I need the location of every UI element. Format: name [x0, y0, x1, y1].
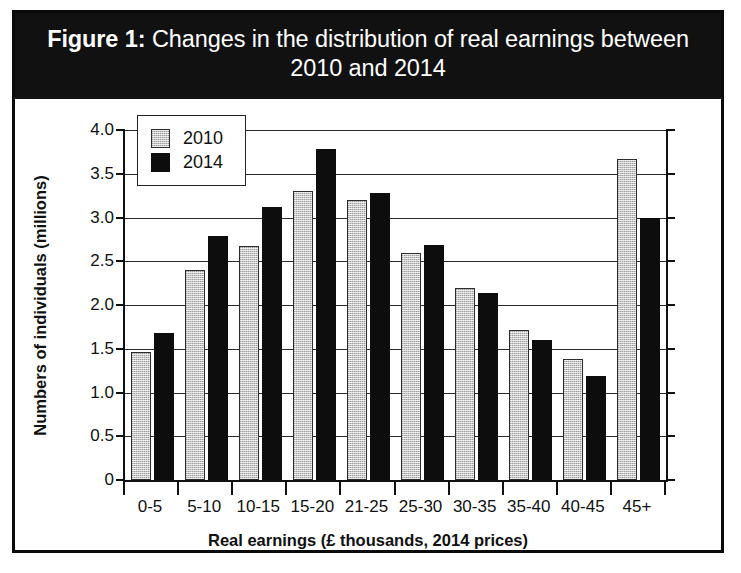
legend-swatch-2010-icon [151, 129, 170, 148]
bar-2014-45+ [640, 218, 660, 480]
bar-2010-35-40 [509, 330, 529, 481]
bar-2010-30-35 [455, 288, 475, 480]
x-axis-ticks [123, 482, 664, 496]
chart-legend: 2010 2014 [137, 115, 246, 186]
legend-label-2014: 2014 [183, 152, 223, 173]
y-axis-tick-mark [116, 260, 125, 262]
bar-2010-21-25 [347, 200, 367, 480]
x-axis-tick-label: 21-25 [345, 497, 388, 517]
y-axis-tick-mark-right [666, 304, 675, 306]
bar-2014-0-5 [154, 333, 174, 480]
bar-2010-45+ [617, 159, 637, 480]
bar-2010-25-30 [401, 253, 421, 481]
y-axis-tick-mark [116, 129, 125, 131]
y-axis-tick-mark [116, 479, 125, 481]
y-axis-tick-label: 0.5 [90, 426, 114, 446]
figure-number-label: Figure 1: [47, 26, 145, 52]
y-axis-tick-mark-right [666, 217, 675, 219]
x-axis-tick-mark [123, 482, 125, 495]
chart-area: Numbers of individuals (millions) 00.51.… [15, 99, 721, 550]
x-axis-tick-mark [339, 482, 341, 495]
y-axis-tick-mark [116, 173, 125, 175]
x-axis-title: Real earnings (£ thousands, 2014 prices) [15, 531, 721, 550]
figure-title-rest: Changes in the distribution of real earn… [152, 26, 689, 81]
x-axis-tick-label: 25-30 [399, 497, 442, 517]
bar-2010-0-5 [131, 352, 151, 480]
bar-2014-15-20 [316, 149, 336, 480]
y-axis-tick-mark [116, 392, 125, 394]
x-axis-tick-label: 15-20 [291, 497, 334, 517]
y-axis-tick-label: 1.0 [90, 383, 114, 403]
bar-2014-30-35 [478, 293, 498, 480]
figure-title: Figure 1: Changes in the distribution of… [41, 25, 695, 83]
y-axis-tick-mark [116, 435, 125, 437]
y-axis-tick-mark [116, 348, 125, 350]
y-axis-tick-mark-right [666, 173, 675, 175]
x-axis-tick-mark [394, 482, 396, 495]
x-axis-tick-labels: 0-55-1010-1515-2021-2525-3030-3535-4040-… [123, 497, 664, 523]
x-axis-tick-label: 35-40 [507, 497, 550, 517]
y-axis-tick-mark [116, 304, 125, 306]
x-axis-tick-label: 45+ [623, 497, 652, 517]
x-axis-tick-label: 40-45 [561, 497, 604, 517]
bar-2014-40-45 [586, 376, 606, 480]
y-axis-tick-mark-right [666, 348, 675, 350]
x-axis-tick-label: 5-10 [187, 497, 221, 517]
y-axis-tick-label: 3.0 [90, 208, 114, 228]
bar-2014-5-10 [208, 236, 228, 480]
y-axis-title-text: Numbers of individuals (millions) [31, 175, 50, 435]
bar-2010-15-20 [293, 191, 313, 480]
y-axis-tick-mark-right [666, 129, 675, 131]
bar-2010-10-15 [239, 246, 259, 480]
legend-item-2010: 2010 [151, 128, 223, 149]
x-axis-tick-mark [556, 482, 558, 495]
x-axis-tick-label: 10-15 [237, 497, 280, 517]
bar-2014-10-15 [262, 207, 282, 480]
y-axis-tick-label: 3.5 [90, 164, 114, 184]
figure-title-banner: Figure 1: Changes in the distribution of… [15, 13, 721, 99]
y-axis-tick-mark-right [666, 392, 675, 394]
x-axis-tick-mark [285, 482, 287, 495]
x-axis-tick-mark [502, 482, 504, 495]
legend-label-2010: 2010 [183, 128, 223, 149]
bar-2010-5-10 [185, 270, 205, 480]
x-axis-tick-mark [177, 482, 179, 495]
bar-2014-21-25 [370, 193, 390, 480]
y-axis-tick-mark-right [666, 260, 675, 262]
y-axis-tick-mark [116, 217, 125, 219]
figure-panel: Figure 1: Changes in the distribution of… [12, 10, 724, 553]
y-axis-title: Numbers of individuals (millions) [29, 130, 51, 480]
y-axis-tick-label: 2.0 [90, 295, 114, 315]
bar-2010-40-45 [563, 359, 583, 480]
y-axis-tick-label: 1.5 [90, 339, 114, 359]
y-axis-tick-mark-right [666, 435, 675, 437]
x-axis-tick-mark [231, 482, 233, 495]
legend-item-2014: 2014 [151, 152, 223, 173]
x-axis-tick-label: 0-5 [138, 497, 163, 517]
bar-2014-35-40 [532, 340, 552, 480]
y-axis-tick-mark-right [666, 479, 675, 481]
legend-swatch-2014-icon [151, 153, 170, 172]
bar-2014-25-30 [424, 245, 444, 480]
y-axis-tick-label: 2.5 [90, 251, 114, 271]
x-axis-tick-mark [664, 482, 666, 495]
x-axis-tick-mark [610, 482, 612, 495]
y-axis-tick-label: 0 [105, 470, 114, 490]
x-axis-tick-label: 30-35 [453, 497, 496, 517]
y-axis-tick-label: 4.0 [90, 120, 114, 140]
x-axis-tick-mark [448, 482, 450, 495]
